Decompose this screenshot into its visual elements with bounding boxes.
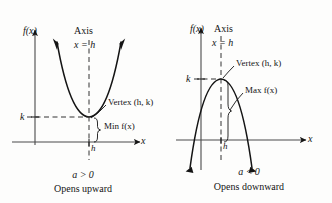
axis-title-label: Axis [74,26,93,36]
vertex-leader-line [223,66,234,78]
h-label: h [91,144,96,153]
coefficient-condition-label: a > 0 [0,169,166,181]
min-value-brace [94,118,101,142]
coefficient-condition-label: a < 0 [166,166,332,178]
panel-caption: Opens upward [0,183,166,195]
panel-caption: Opens downward [166,181,332,193]
x-axis-label: x [308,134,312,144]
y-axis-label: f(x) [23,26,37,36]
x-axis-label: x [141,136,145,146]
max-value-label: Max f(x) [245,86,277,95]
vertex-label: Vertex (h, k) [108,98,153,107]
axis-equation-label: x = h [74,40,95,50]
max-value-brace [224,80,232,142]
panel-opens-downward: f(x) x Axis x = h Vertex (h, k) Max f(x)… [166,0,332,203]
axis-equation-label: x = h [212,38,233,48]
k-label: k [20,112,24,122]
panel-opens-upward: f(x) x Axis x = h Vertex (h, k) Min f(x)… [0,0,166,203]
k-label: k [186,74,190,84]
figure-root: f(x) x Axis x = h Vertex (h, k) Min f(x)… [0,0,332,203]
vertex-label: Vertex (h, k) [236,59,281,68]
y-axis-label: f(x) [190,24,204,34]
min-value-label: Min f(x) [104,122,135,131]
h-label: h [223,142,228,151]
axis-title-label: Axis [214,24,233,34]
